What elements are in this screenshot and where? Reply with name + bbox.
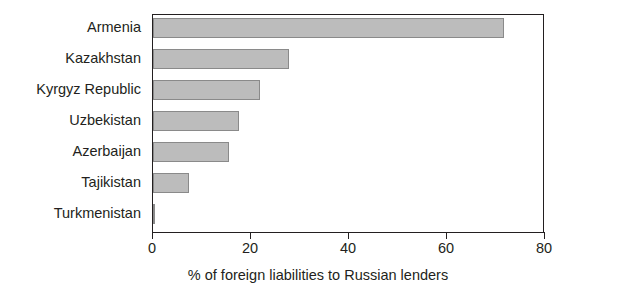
category-label-kyrgyz-republic: Kyrgyz Republic [36,82,141,97]
x-tick-label-60: 60 [438,241,454,256]
x-tick-60 [446,232,447,239]
category-label-armenia: Armenia [87,20,141,35]
bar-tajikistan [153,173,189,193]
category-label-azerbaijan: Azerbaijan [72,144,141,159]
bar-uzbekistan [153,111,239,131]
bar-kyrgyz-republic [153,80,260,100]
bar-turkmenistan [153,204,155,224]
x-tick-label-40: 40 [340,241,356,256]
x-tick-label-0: 0 [148,241,156,256]
x-tick-80 [544,232,545,239]
category-label-tajikistan: Tajikistan [81,175,141,190]
bar-kazakhstan [153,49,289,69]
category-label-uzbekistan: Uzbekistan [69,113,141,128]
category-axis-labels: Armenia Kazakhstan Kyrgyz Republic Uzbek… [0,14,148,232]
bar-azerbaijan [153,142,229,162]
x-tick-40 [348,232,349,239]
plot-area [152,14,544,232]
x-tick-label-80: 80 [536,241,552,256]
bar-series [153,15,543,232]
x-tick-label-20: 20 [242,241,258,256]
bar-chart: Armenia Kazakhstan Kyrgyz Republic Uzbek… [0,0,636,299]
x-tick-20 [250,232,251,239]
bar-armenia [153,18,504,38]
x-axis-title: % of foreign liabilities to Russian lend… [0,268,636,283]
x-tick-0 [152,232,153,239]
category-label-kazakhstan: Kazakhstan [65,51,141,66]
category-label-turkmenistan: Turkmenistan [54,206,141,221]
